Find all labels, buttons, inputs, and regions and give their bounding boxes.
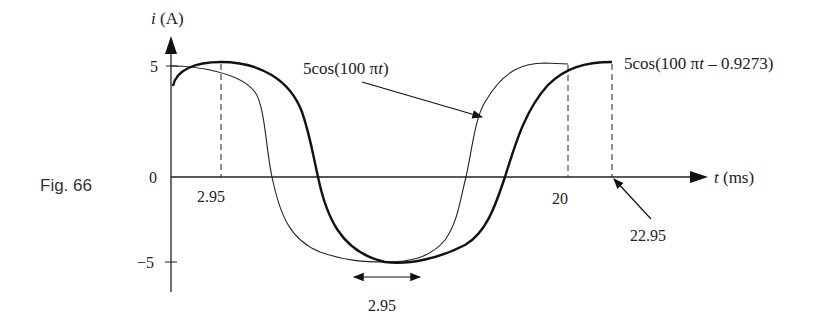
- curve2-label: 5cos(100 πt – 0.9273): [624, 54, 773, 73]
- end-marker-label: 22.95: [630, 227, 666, 244]
- x-axis: t (ms) 2.95 20: [171, 168, 754, 207]
- y-tick-0: 0: [149, 169, 157, 186]
- y-tick-5: 5: [150, 58, 158, 75]
- curve1-pointer-arrow: [362, 82, 482, 117]
- y-axis-label: i (A): [151, 9, 184, 28]
- phase-shift-label: 2.95: [368, 297, 396, 314]
- x-axis-label: t (ms): [714, 168, 754, 187]
- curve-5cos-100pi-t-phase: [173, 62, 612, 263]
- end-marker-arrow: [614, 179, 651, 219]
- x-axis-arrow-icon: [690, 171, 708, 183]
- x-tick-2.95: 2.95: [197, 188, 225, 205]
- x-tick-20: 20: [552, 190, 568, 207]
- y-axis: i (A) 5 0 −5: [137, 9, 184, 292]
- y-axis-arrow-icon: [165, 36, 177, 54]
- figure-caption: Fig. 66: [40, 176, 92, 195]
- curve1-label: 5cos(100 πt): [303, 59, 389, 78]
- figure-canvas: Fig. 66 i (A) 5 0 −5 t (ms) 2.95 20 5cos…: [0, 0, 833, 331]
- y-tick-neg5: −5: [137, 254, 154, 271]
